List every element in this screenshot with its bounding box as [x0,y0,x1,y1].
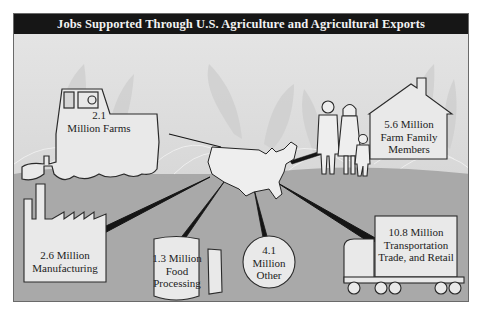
transport-value: 10.8 Million [375,226,457,239]
label-transport: 10.8 Million Transportation Trade, and R… [375,226,457,264]
other-text-2: Other [244,269,294,282]
manufacturing-value: 2.6 Million [24,249,106,262]
infographic-scene: 2.1 Million Farms 5.6 Million Farm Famil… [14,34,468,302]
manufacturing-text: Manufacturing [24,262,106,275]
other-text-1: Million [244,257,294,270]
food-value: 1.3 Million [152,252,202,265]
family-text-2: Members [370,143,448,156]
family-value: 5.6 Million [370,118,448,131]
label-farms: 2.1 Million Farms [54,109,144,134]
label-other: 4.1 Million Other [244,244,294,282]
farms-text: Million Farms [54,122,144,135]
infographic-frame: Jobs Supported Through U.S. Agriculture … [13,13,469,302]
food-text-2: Processing [152,277,202,290]
family-text-1: Farm Family [370,131,448,144]
farms-value: 2.1 [54,109,144,122]
infographic-title: Jobs Supported Through U.S. Agriculture … [14,14,468,34]
transport-text-1: Transportation [375,239,457,252]
transport-text-2: Trade, and Retail [375,251,457,264]
label-family: 5.6 Million Farm Family Members [370,118,448,156]
other-value: 4.1 [244,244,294,257]
label-manufacturing: 2.6 Million Manufacturing [24,249,106,274]
food-text-1: Food [152,265,202,278]
label-food: 1.3 Million Food Processing [152,252,202,290]
